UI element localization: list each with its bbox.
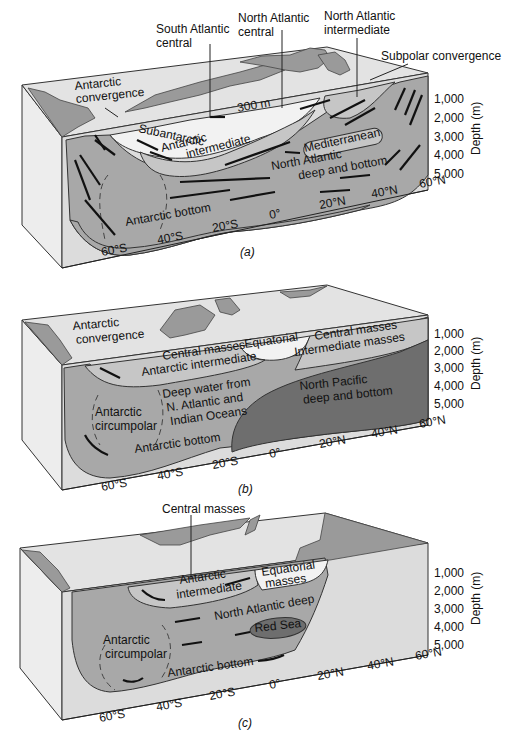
svg-text:5,000: 5,000 (434, 167, 464, 181)
svg-text:1,000: 1,000 (434, 92, 464, 106)
svg-text:5,000: 5,000 (434, 638, 464, 652)
svg-text:2,000: 2,000 (434, 584, 464, 598)
panel-c: Central masses Antarcticintermediate Equ… (20, 502, 483, 730)
svg-text:Depth (m): Depth (m) (469, 572, 483, 625)
svg-text:1,000: 1,000 (434, 327, 464, 341)
svg-text:4,000: 4,000 (434, 379, 464, 393)
depth-axis-b: 1,000 2,000 3,000 4,000 5,000 Depth (m) (434, 327, 483, 411)
caption-c: (c) (238, 716, 252, 730)
depth-axis-c: 1,000 2,000 3,000 4,000 5,000 Depth (m) (434, 566, 483, 652)
panel-a: South Atlanticcentral North Atlanticcent… (22, 9, 501, 268)
callout-north-atlantic-intermediate: North Atlanticintermediate (324, 9, 395, 37)
callout-subpolar-convergence: Subpolar convergence (381, 49, 501, 63)
callout-central-masses-c: Central masses (162, 502, 245, 516)
ocean-water-masses-figure: South Atlanticcentral North Atlanticcent… (0, 0, 521, 748)
svg-text:4,000: 4,000 (434, 148, 464, 162)
depth-axis-a: 1,000 2,000 3,000 4,000 5,000 Depth (m) (434, 92, 483, 181)
callout-south-atlantic-central: South Atlanticcentral (156, 22, 229, 50)
svg-text:2,000: 2,000 (434, 344, 464, 358)
caption-a: (a) (240, 245, 255, 259)
svg-text:1,000: 1,000 (434, 566, 464, 580)
svg-text:3,000: 3,000 (434, 361, 464, 375)
svg-text:Depth (m): Depth (m) (469, 102, 483, 155)
caption-b: (b) (238, 482, 253, 496)
callout-north-atlantic-central: North Atlanticcentral (238, 11, 309, 39)
svg-text:5,000: 5,000 (434, 397, 464, 411)
svg-text:Depth (m): Depth (m) (469, 337, 483, 390)
svg-text:2,000: 2,000 (434, 111, 464, 125)
svg-text:3,000: 3,000 (434, 130, 464, 144)
svg-text:4,000: 4,000 (434, 620, 464, 634)
svg-text:3,000: 3,000 (434, 602, 464, 616)
arrow-icon (285, 152, 300, 153)
panel-b: Antarcticconvergence Central masses Equa… (22, 285, 483, 496)
